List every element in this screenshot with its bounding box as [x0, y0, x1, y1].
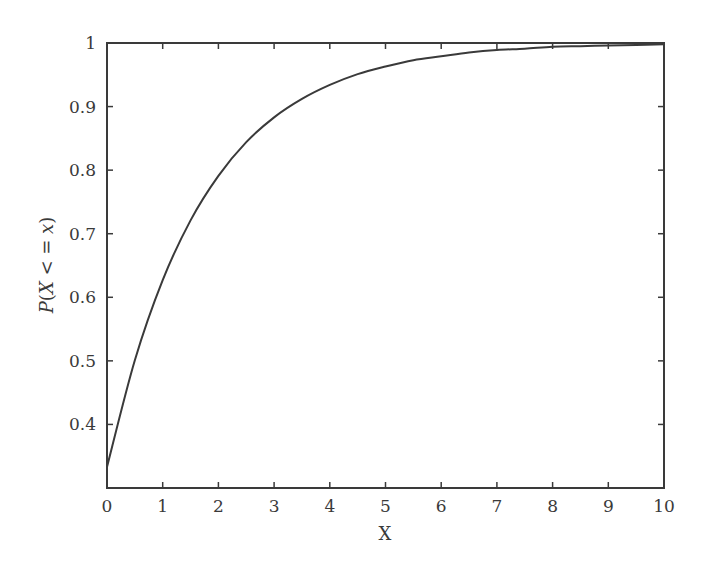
- x-tick-label: 2: [213, 496, 224, 516]
- x-tick-label: 5: [380, 496, 391, 516]
- y-tick-label: 0.4: [69, 414, 96, 434]
- y-axis-label: P(X < = x): [36, 217, 57, 315]
- y-tick-label: 0.6: [69, 287, 96, 307]
- x-tick-label: 6: [436, 496, 447, 516]
- y-tick-label: 0.7: [69, 224, 96, 244]
- cdf-chart: 0123456789100.40.50.60.70.80.91 X P(X < …: [0, 0, 705, 566]
- y-tick-label: 0.5: [69, 351, 96, 371]
- x-tick-label: 1: [157, 496, 168, 516]
- x-axis-label: X: [379, 523, 392, 544]
- x-tick-label: 0: [102, 496, 113, 516]
- tick-labels: 0123456789100.40.50.60.70.80.91: [69, 33, 675, 516]
- y-tick-label: 0.8: [69, 160, 96, 180]
- x-tick-label: 7: [491, 496, 502, 516]
- axis-ticks: [107, 43, 664, 488]
- plot-frame: [107, 43, 664, 488]
- x-tick-label: 8: [547, 496, 558, 516]
- y-tick-label: 0.9: [69, 97, 96, 117]
- x-tick-label: 3: [269, 496, 280, 516]
- x-tick-label: 10: [653, 496, 675, 516]
- cdf-curve: [107, 44, 664, 467]
- x-tick-label: 9: [603, 496, 614, 516]
- x-tick-label: 4: [324, 496, 335, 516]
- y-tick-label: 1: [85, 33, 96, 53]
